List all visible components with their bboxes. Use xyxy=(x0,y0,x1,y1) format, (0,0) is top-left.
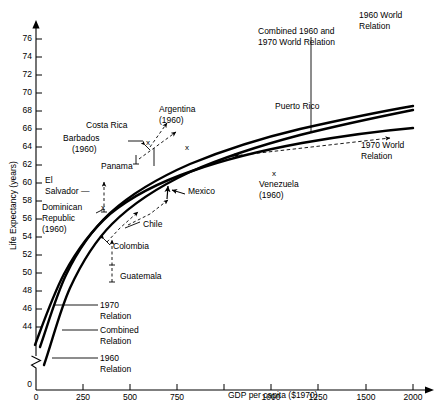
label-dominican-line1: Dominican xyxy=(42,202,82,213)
ytick-48: 48 xyxy=(12,285,32,296)
label-1960-world-relation-line1: 1960 World xyxy=(359,10,402,21)
svg-text:x: x xyxy=(185,143,189,152)
label-1970-world-relation-line1: 1970 World xyxy=(361,140,404,151)
xtick-0: 0 xyxy=(26,392,46,403)
label-el-salvador-line1: El xyxy=(45,175,53,186)
label-argentina-line1: Argentina xyxy=(159,104,195,115)
label-combined-relation-line1: Combined 1960 and xyxy=(258,26,335,37)
annotation-panama-arrow xyxy=(133,132,176,166)
svg-text:x: x xyxy=(146,138,150,147)
xtick-750: 750 xyxy=(162,392,192,403)
x-axis-title: GDP per capita ($1970) xyxy=(228,390,318,401)
svg-text:x: x xyxy=(272,169,276,178)
xtick-500: 500 xyxy=(115,392,145,403)
annotation-el-salvador: x xyxy=(101,182,107,212)
ytick-64: 64 xyxy=(12,141,32,152)
ytick-46: 46 xyxy=(12,303,32,314)
xtick-250: 250 xyxy=(68,392,98,403)
y-axis-title: Life Expectancy (years) xyxy=(8,161,18,250)
ytick-66: 66 xyxy=(12,123,32,134)
label-combined-relation-left-line1: Combined xyxy=(100,325,139,336)
ytick-44: 44 xyxy=(12,321,32,332)
label-1970-world-relation-line2: Relation xyxy=(361,151,392,162)
label-combined-relation-left-line2: Relation xyxy=(100,336,131,347)
annotation-barbados: x xyxy=(128,138,150,147)
label-venezuela-line2: (1960) xyxy=(259,190,284,201)
ytick-zero: 0 xyxy=(12,379,32,390)
label-barbados-line1: Barbados xyxy=(63,133,99,144)
ytick-76: 76 xyxy=(12,33,32,44)
label-1970-relation-line1: 1970 xyxy=(100,300,119,311)
label-venezuela-line1: Venezuela xyxy=(259,179,299,190)
ytick-70: 70 xyxy=(12,87,32,98)
label-dominican-line2: Republic xyxy=(42,213,75,224)
label-1960-relation-line2: Relation xyxy=(100,364,131,375)
curve-1970-world-relation xyxy=(35,128,413,345)
label-mexico: Mexico xyxy=(188,186,215,197)
label-colombia: Colombia xyxy=(113,241,149,252)
label-argentina-line2: (1960) xyxy=(159,115,184,126)
label-el-salvador-line2: Salvador — xyxy=(45,186,89,197)
y-axis-ticks xyxy=(36,39,42,327)
ytick-52: 52 xyxy=(12,249,32,260)
label-costa-rica: Costa Rica xyxy=(86,120,128,131)
annotation-mexico xyxy=(167,186,185,199)
label-puerto-rico: Puerto Rico xyxy=(275,101,319,112)
label-combined-relation-line2: 1970 World Relation xyxy=(258,37,335,48)
annotation-argentina: x xyxy=(185,143,189,152)
label-1970-relation-line2: Relation xyxy=(100,311,131,322)
leader-lines-left xyxy=(52,305,98,358)
xtick-2000: 2000 xyxy=(397,392,429,403)
ytick-68: 68 xyxy=(12,105,32,116)
ytick-72: 72 xyxy=(12,69,32,80)
annotation-venezuela: x xyxy=(272,169,276,178)
xtick-1500: 1500 xyxy=(349,392,383,403)
label-barbados-line2: (1960) xyxy=(72,144,97,155)
label-1960-relation-line1: 1960 xyxy=(100,353,119,364)
label-chile: Chile xyxy=(143,219,162,230)
ytick-74: 74 xyxy=(12,51,32,62)
chart-container: x x x xyxy=(0,0,443,406)
label-panama: Panama xyxy=(101,161,133,172)
label-guatemala: Guatemala xyxy=(120,271,162,282)
ytick-50: 50 xyxy=(12,267,32,278)
label-1960-world-relation-line2: Relation xyxy=(359,21,390,32)
label-dominican-line3: (1960) xyxy=(42,224,67,235)
